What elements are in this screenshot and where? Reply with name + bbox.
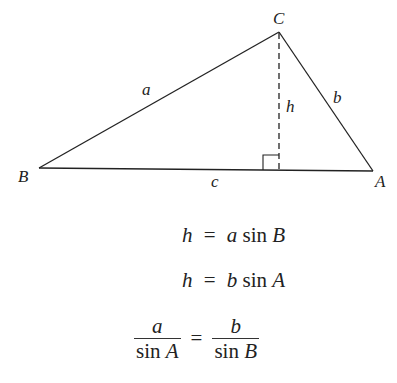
eq3-equals: = <box>191 326 203 351</box>
left-denominator: sin A <box>134 338 181 362</box>
triangle-diagram: C B A a b c h <box>0 0 397 200</box>
law-of-sines-equation: a sin A = b sin B <box>134 315 259 362</box>
side-a <box>39 32 279 168</box>
right-angle-marker <box>263 155 279 170</box>
eq1-equals: = <box>204 223 216 247</box>
eq1-fn: sin <box>243 223 268 247</box>
eq2-fn: sin <box>243 268 268 292</box>
left-numerator: a <box>150 315 165 338</box>
side-label-a: a <box>142 80 151 99</box>
eq1-coef: a <box>227 223 238 247</box>
equation-h-a-sinB: h = a sin B <box>182 223 285 248</box>
left-den-arg: A <box>166 339 179 363</box>
vertex-label-B: B <box>18 167 29 186</box>
right-denominator: sin B <box>212 338 259 362</box>
side-label-b: b <box>333 88 342 107</box>
eq1-lhs: h <box>182 223 193 247</box>
left-fraction: a sin A <box>134 315 181 362</box>
right-den-arg: B <box>244 339 257 363</box>
eq2-arg: A <box>272 268 285 292</box>
equation-h-b-sinA: h = b sin A <box>182 268 285 293</box>
vertex-label-A: A <box>374 172 386 191</box>
left-den-fn: sin <box>136 339 161 363</box>
eq2-equals: = <box>204 268 216 292</box>
eq2-lhs: h <box>182 268 193 292</box>
right-numerator: b <box>228 315 243 338</box>
eq1-arg: B <box>272 223 285 247</box>
vertex-label-C: C <box>273 9 285 28</box>
altitude-label-h: h <box>286 97 295 116</box>
right-fraction: b sin B <box>212 315 259 362</box>
right-den-fn: sin <box>214 339 239 363</box>
side-c <box>39 168 373 171</box>
eq2-coef: b <box>227 268 238 292</box>
side-label-c: c <box>211 172 219 191</box>
